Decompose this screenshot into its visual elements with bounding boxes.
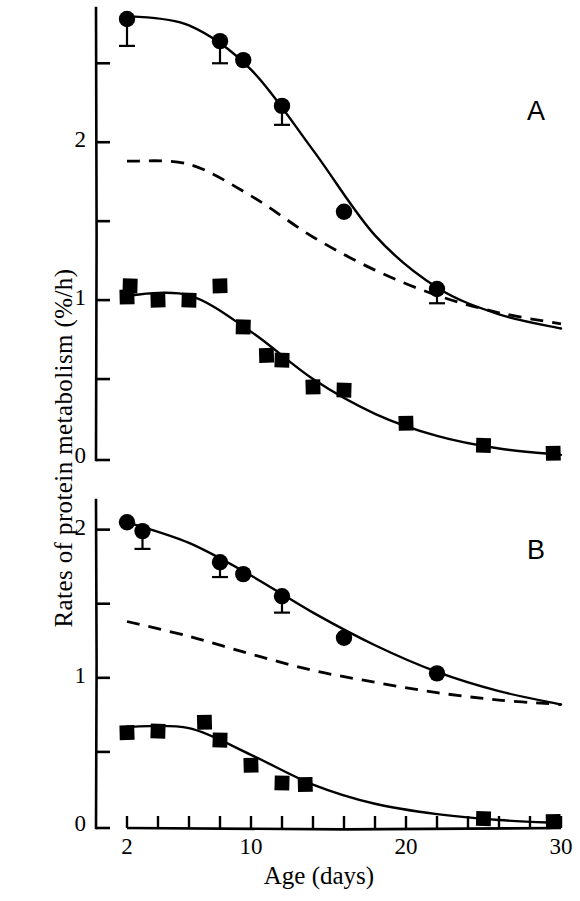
x-axis-spine [127, 828, 561, 829]
panel-a-data-point-circle [429, 281, 445, 297]
plot-canvas [0, 0, 580, 901]
panel-b-data-point-square [212, 732, 227, 747]
panel-a-data-point-circle [274, 98, 290, 114]
x-tick-label-10: 10 [226, 834, 276, 860]
panel-a-data-point-square [123, 278, 138, 293]
panel-a-data-point-circle [336, 203, 352, 219]
panel-a-data-point-circle [235, 52, 251, 68]
figure-root: Rates of protein metabolism (%/h) Age (d… [0, 0, 580, 901]
panel-a-data-point-square [259, 348, 274, 363]
panel-b-data-point-square [197, 715, 212, 730]
panel-a-data-point-square [398, 416, 413, 431]
panel-b-y-tick-label-2: 2 [56, 515, 86, 541]
panel-a-data-point-square [274, 353, 289, 368]
panel-b-data-point-square [546, 814, 561, 829]
panel-a-y-tick-label-2: 2 [56, 127, 86, 153]
panel-b-y-tick-label-1: 1 [56, 663, 86, 689]
panel-b-y-tick-label-0: 0 [56, 811, 86, 837]
panel-b-data-point-square [298, 777, 313, 792]
panel-a-data-point-square [212, 278, 227, 293]
x-tick-label-20: 20 [381, 834, 431, 860]
panel-a-y-tick-label-1: 1 [56, 285, 86, 311]
panel-b-data-point-square [243, 758, 258, 773]
x-tick-label-2: 2 [102, 834, 152, 860]
panel-a-data-point-square [305, 379, 320, 394]
panel-b-data-point-circle [336, 630, 352, 646]
panel-a-curve-0 [127, 16, 561, 329]
panel-a-data-point-square [546, 446, 561, 461]
panel-a-data-point-square [236, 319, 251, 334]
panel-a-curve-1 [127, 293, 561, 455]
panel-b-data-point-square [476, 811, 491, 826]
panel-b-data-point-circle [235, 566, 251, 582]
panel-b-data-point-circle [212, 554, 228, 570]
panel-a-data-point-square [476, 438, 491, 453]
panel-a-y-axis-spine [96, 8, 97, 460]
x-tick-label-30: 30 [536, 834, 580, 860]
panel-b-data-point-square [274, 775, 289, 790]
panel-b-data-point-circle [274, 588, 290, 604]
panel-a-data-point-square [181, 293, 196, 308]
panel-b-data-point-square [150, 724, 165, 739]
panel-a-data-point-square [336, 383, 351, 398]
panel-b-data-point-circle [429, 665, 445, 681]
panel-a-data-point-circle [212, 33, 228, 49]
panel-b-data-point-circle [134, 523, 150, 539]
panel-b-y-axis-spine [96, 500, 97, 828]
panel-a-data-point-circle [119, 11, 135, 27]
panel-b-data-point-square [119, 725, 134, 740]
panel-b-data-point-circle [119, 514, 135, 530]
panel-b-curve-1 [127, 726, 561, 823]
panel-a-y-tick-label-0: 0 [56, 443, 86, 469]
panel-a-data-point-square [150, 293, 165, 308]
